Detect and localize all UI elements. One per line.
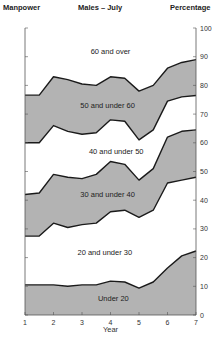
band-label: 40 and under 50 <box>89 147 144 156</box>
x-tick-label: 2 <box>52 319 56 326</box>
y-tick-label: 70 <box>200 111 208 118</box>
band-label: 30 and under 40 <box>80 190 135 199</box>
y-tick-label: 60 <box>200 139 208 146</box>
x-tick-label: 6 <box>166 319 170 326</box>
y-tick-label: 80 <box>200 82 208 89</box>
x-tick-label: 3 <box>80 319 84 326</box>
band-label: Under 20 <box>98 294 129 303</box>
stacked-area-chart: 01020304050607080901001234567Year60 and … <box>0 0 224 343</box>
y-tick-label: 90 <box>200 53 208 60</box>
x-tick-label: 7 <box>194 319 198 326</box>
y-tick-label: 100 <box>200 25 212 32</box>
y-tick-label: 40 <box>200 197 208 204</box>
y-tick-label: 20 <box>200 254 208 261</box>
x-tick-label: 1 <box>23 319 27 326</box>
y-tick-label: 30 <box>200 225 208 232</box>
x-axis-label: Year <box>103 325 119 334</box>
y-tick-label: 10 <box>200 283 208 290</box>
y-tick-label: 0 <box>200 312 204 319</box>
band-label: 60 and over <box>91 47 131 56</box>
band-label: 20 and under 30 <box>77 248 132 257</box>
band-label: 50 and under 60 <box>80 101 135 110</box>
y-tick-label: 50 <box>200 168 208 175</box>
x-tick-label: 5 <box>137 319 141 326</box>
